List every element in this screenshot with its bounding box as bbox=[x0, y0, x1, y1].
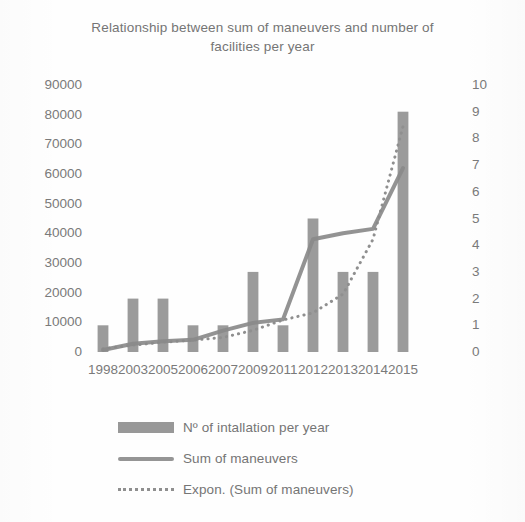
y-right-tick-label: 10 bbox=[472, 78, 487, 92]
chart-title-line-2: facilities per year bbox=[210, 39, 314, 54]
y-right-tick-label: 8 bbox=[472, 131, 480, 145]
y-right-tick-label: 2 bbox=[472, 292, 480, 306]
y-axis-right: 012345678910 bbox=[472, 0, 512, 522]
x-axis-tick-label: 2009 bbox=[238, 362, 268, 378]
x-axis-tick-label: 2011 bbox=[268, 362, 298, 378]
x-axis-tick-label: 2013 bbox=[328, 362, 358, 378]
y-left-tick-label: 80000 bbox=[44, 108, 82, 122]
bar-2015 bbox=[398, 112, 409, 352]
y-axis-left: 0100002000030000400005000060000700008000… bbox=[0, 0, 82, 522]
y-left-tick-label: 40000 bbox=[44, 226, 82, 240]
y-right-tick-label: 0 bbox=[472, 345, 480, 359]
y-right-tick-label: 4 bbox=[472, 238, 480, 252]
y-left-tick-label: 90000 bbox=[44, 78, 82, 92]
x-axis-tick-label: 2012 bbox=[298, 362, 328, 378]
x-axis-tick-label: 2003 bbox=[118, 362, 148, 378]
y-left-tick-label: 20000 bbox=[44, 286, 82, 300]
y-left-tick-label: 60000 bbox=[44, 167, 82, 181]
x-axis: 1998200320052006200720092011201220132014… bbox=[88, 362, 418, 382]
legend-item-label: Sum of maneuvers bbox=[183, 451, 298, 466]
y-right-tick-label: 5 bbox=[472, 212, 480, 226]
legend-item-label: Expon. (Sum of maneuvers) bbox=[183, 482, 354, 497]
chart-legend: Nº of intallation per yearSum of maneuve… bbox=[118, 412, 418, 505]
sum-of-maneuvers-line bbox=[103, 168, 403, 350]
y-left-tick-label: 0 bbox=[74, 345, 82, 359]
plot-svg bbox=[88, 85, 418, 352]
legend-swatch-icon bbox=[118, 483, 174, 497]
x-axis-tick-label: 2006 bbox=[178, 362, 208, 378]
x-axis-tick-label: 1998 bbox=[88, 362, 118, 378]
chart-title: Relationship between sum of maneuvers an… bbox=[55, 18, 470, 56]
chart-container: Relationship between sum of maneuvers an… bbox=[0, 0, 525, 522]
x-axis-tick-label: 2007 bbox=[208, 362, 238, 378]
x-axis-tick-label: 2015 bbox=[388, 362, 418, 378]
legend-item[interactable]: Expon. (Sum of maneuvers) bbox=[118, 474, 418, 505]
legend-swatch-icon bbox=[118, 452, 174, 466]
bar-2009 bbox=[248, 272, 259, 352]
legend-swatch-icon bbox=[118, 422, 174, 433]
bar-2011 bbox=[278, 325, 289, 352]
legend-item[interactable]: Sum of maneuvers bbox=[118, 443, 418, 474]
y-left-tick-label: 70000 bbox=[44, 137, 82, 151]
y-right-tick-label: 3 bbox=[472, 265, 480, 279]
bar-2013 bbox=[338, 272, 349, 352]
y-right-tick-label: 1 bbox=[472, 318, 480, 332]
y-left-tick-label: 50000 bbox=[44, 197, 82, 211]
y-left-tick-label: 30000 bbox=[44, 256, 82, 270]
chart-title-line-1: Relationship between sum of maneuvers an… bbox=[91, 20, 433, 35]
y-right-tick-label: 9 bbox=[472, 105, 480, 119]
plot-area bbox=[88, 85, 418, 352]
y-left-tick-label: 10000 bbox=[44, 315, 82, 329]
x-axis-tick-label: 2014 bbox=[358, 362, 388, 378]
y-right-tick-label: 6 bbox=[472, 185, 480, 199]
y-right-tick-label: 7 bbox=[472, 158, 480, 172]
legend-item-label: Nº of intallation per year bbox=[183, 420, 329, 435]
x-axis-tick-label: 2005 bbox=[148, 362, 178, 378]
legend-item[interactable]: Nº of intallation per year bbox=[118, 412, 418, 443]
bar-2014 bbox=[368, 272, 379, 352]
